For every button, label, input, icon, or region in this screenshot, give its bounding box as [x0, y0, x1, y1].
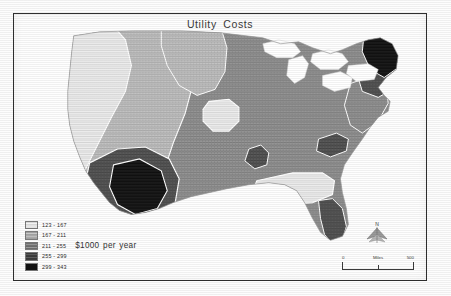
map-legend: 123 - 167 167 - 211 211 - 255 $1000 per …	[25, 220, 136, 273]
scale-bar-endpoints: 0 500	[342, 255, 414, 260]
legend-label: 123 - 167	[42, 222, 67, 228]
legend-row: 255 - 299	[25, 251, 136, 262]
legend-label: 167 - 211	[42, 232, 66, 238]
scale-bar-left-label: 0	[342, 255, 344, 260]
legend-swatch	[25, 263, 38, 272]
north-arrow: N	[360, 222, 394, 248]
legend-units-note: $1000 per year	[75, 241, 136, 250]
map-title: Utility Costs	[14, 18, 426, 30]
legend-label: 255 - 299	[42, 253, 67, 259]
north-arrow-label: N	[375, 221, 379, 227]
scale-bar-tick	[378, 265, 379, 269]
scale-bar: Miles 0 500	[342, 262, 414, 270]
legend-row: 123 - 167	[25, 220, 136, 231]
legend-swatch	[25, 252, 38, 261]
map-figure: Utility Costs	[0, 0, 451, 296]
scale-bar-right-label: 500	[407, 255, 414, 260]
legend-label: 299 - 343	[42, 264, 67, 270]
region-central-plains-pocket	[203, 99, 239, 131]
scale-bar-line	[342, 262, 414, 270]
legend-row: 167 - 211	[25, 230, 136, 241]
legend-swatch	[25, 231, 38, 240]
legend-label: 211 - 255	[42, 243, 66, 249]
legend-swatch	[25, 221, 38, 230]
map-frame: Utility Costs	[13, 13, 427, 281]
legend-row: 299 - 343	[25, 262, 136, 273]
legend-row: 211 - 255 $1000 per year	[25, 241, 136, 252]
legend-swatch	[25, 242, 38, 251]
